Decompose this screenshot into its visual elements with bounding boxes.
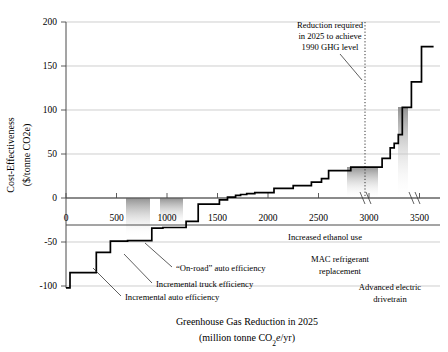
x-tick-3000: 3000 bbox=[360, 213, 379, 223]
incremental-truck-efficiency-label: Incremental truck efficiency bbox=[156, 279, 254, 289]
advanced-electric-drivetrain-line2: drivetrain bbox=[373, 294, 407, 304]
band-incremental-auto-efficiency bbox=[126, 198, 150, 237]
reduction-required-line1: Reduction required bbox=[297, 20, 364, 30]
incremental-auto-efficiency-label: Incremental auto efficiency bbox=[125, 292, 220, 302]
increased-ethanol-use-label: Increased ethanol use bbox=[288, 232, 362, 242]
annotation-increased-ethanol-use: Increased ethanol use bbox=[288, 232, 362, 242]
y-tick-150: 150 bbox=[43, 61, 58, 71]
reduction-required-line2: in 2025 to achieve bbox=[298, 31, 361, 41]
chart-canvas: 200 150 100 50 0 -50 -100 0 bbox=[0, 0, 448, 352]
x-tick-2500: 2500 bbox=[309, 213, 328, 223]
band-mac-refrigerant-replacement bbox=[347, 167, 378, 199]
y-axis-title-line1: Cost-Effectiveness bbox=[5, 117, 16, 192]
advanced-electric-drivetrain-line1: Advanced electric bbox=[359, 282, 421, 292]
x-tick-500: 500 bbox=[109, 213, 124, 223]
y-axis-title-line2: ($/tonne CO2e) bbox=[21, 124, 33, 187]
y-tick-100: 100 bbox=[43, 105, 58, 115]
on-road-auto-efficiency-label: “On-road” auto efficiency bbox=[176, 263, 266, 273]
mac-refrigerant-replacement-line2: replacement bbox=[319, 266, 362, 276]
y-tick-200: 200 bbox=[43, 17, 58, 27]
x-tick-1500: 1500 bbox=[208, 213, 227, 223]
x-axis-title-line1: Greenhouse Gas Reduction in 2025 bbox=[176, 316, 318, 327]
y-tick-50: 50 bbox=[48, 149, 58, 159]
reduction-required-line3: 1990 GHG level bbox=[302, 42, 359, 52]
y-tick-neg50: -50 bbox=[44, 237, 57, 247]
mac-refrigerant-replacement-line1: MAC refrigerant bbox=[311, 254, 370, 264]
x-tick-2000: 2000 bbox=[259, 213, 278, 223]
y-tick-neg100: -100 bbox=[40, 281, 58, 291]
x-tick-1000: 1000 bbox=[158, 213, 177, 223]
chart-root: 200 150 100 50 0 -50 -100 0 bbox=[0, 0, 448, 352]
x-tick-3500: 3500 bbox=[410, 213, 429, 223]
y-tick-0: 0 bbox=[52, 193, 57, 203]
x-tick-0: 0 bbox=[64, 213, 69, 223]
